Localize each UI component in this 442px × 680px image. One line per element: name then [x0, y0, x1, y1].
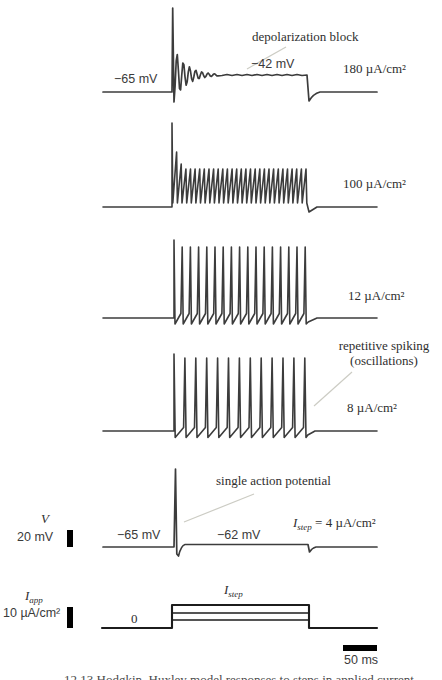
- trace1-baseline-voltage-label: −65 mV: [114, 72, 157, 86]
- repetitive-spiking-line2: (oscillations): [330, 354, 438, 369]
- current-scale-label: 10 µA/cm²: [3, 606, 60, 620]
- voltage-trace-12: [103, 240, 377, 324]
- voltage-trace-180: [103, 8, 377, 102]
- figure-caption: 12.13 Hodgkin–Huxley model responses to …: [64, 672, 414, 680]
- time-scalebar: [343, 645, 377, 651]
- current-axis-symbol: Iapp: [25, 588, 43, 605]
- trace1-current-amplitude-label: 180 µA/cm²: [343, 61, 406, 77]
- trace1-plateau-voltage-label: −42 mV: [251, 57, 294, 71]
- voltage-trace-100: [103, 123, 377, 212]
- single-ap-pointer-line: [184, 494, 254, 522]
- trace2-current-amplitude-label: 100 µA/cm²: [343, 176, 406, 192]
- trace4-current-amplitude-label: 8 µA/cm²: [347, 400, 397, 416]
- time-scale-label: 50 ms: [344, 653, 378, 667]
- trace5-current-amplitude-label: Istep = 4 µA/cm²: [293, 515, 376, 532]
- depolarization-block-label: depolarization block: [252, 29, 359, 45]
- istep-pulse-subscript: step: [228, 589, 243, 599]
- current-trace-outline: [102, 605, 377, 628]
- trace3-current-amplitude-label: 12 µA/cm²: [348, 288, 405, 304]
- hh-figure: depolarization block −65 mV −42 mV 180 µ…: [0, 0, 442, 680]
- istep-value: = 4 µA/cm²: [312, 515, 376, 530]
- trace5-plateau-voltage-label: −62 mV: [217, 528, 260, 542]
- trace5-baseline-voltage-label: −65 mV: [117, 528, 160, 542]
- voltage-axis-symbol: V: [41, 511, 49, 527]
- current-zero-label: 0: [131, 611, 138, 627]
- single-action-potential-label: single action potential: [216, 473, 331, 489]
- repetitive-spiking-line1: repetitive spiking: [330, 339, 438, 354]
- istep-subscript: step: [297, 522, 312, 532]
- istep-pulse-label: Istep: [224, 582, 243, 599]
- voltage-scalebar: [67, 530, 73, 547]
- current-scalebar: [67, 607, 73, 628]
- iapp-subscript: app: [29, 595, 43, 605]
- voltage-scale-label: 20 mV: [17, 530, 53, 544]
- repetitive-spiking-label: repetitive spiking (oscillations): [330, 339, 438, 368]
